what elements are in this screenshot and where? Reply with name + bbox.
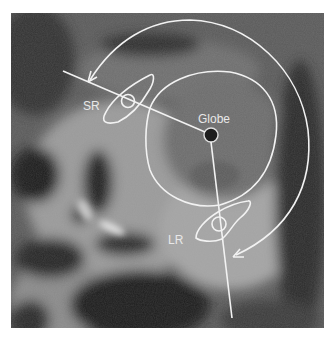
- mri-figure: SR Globe LR: [0, 0, 336, 344]
- label-lr: LR: [168, 233, 184, 247]
- mri-background: [0, 5, 325, 340]
- label-globe: Globe: [198, 112, 230, 126]
- label-sr: SR: [83, 99, 100, 113]
- globe-center-marker: [204, 128, 218, 142]
